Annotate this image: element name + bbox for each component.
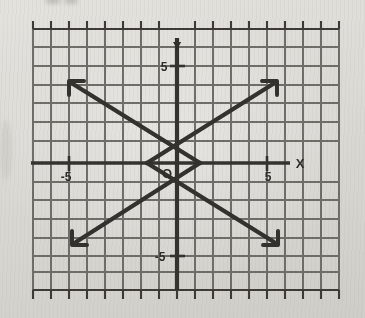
ray-upper-left (73, 84, 200, 163)
x-tick-label-positive: 5 (265, 170, 272, 184)
x-axis-label: X (296, 156, 305, 171)
grid-lines (33, 29, 339, 290)
origin-label: O (162, 166, 172, 181)
grid-frame (33, 29, 339, 290)
y-tick-label-negative: -5 (155, 250, 166, 264)
frame-ticks-top (33, 21, 339, 29)
scanned-page: Y X O 5 -5 -5 5 (0, 0, 365, 318)
y-tick-label-positive: 5 (161, 60, 168, 74)
x-tick-label-negative: -5 (61, 170, 72, 184)
ray-upper-right (147, 84, 273, 163)
frame-ticks-bottom (33, 290, 339, 299)
y-axis-label: Y (173, 39, 182, 54)
ray-lower-left (76, 163, 200, 242)
coordinate-plane: Y X O 5 -5 -5 5 (0, 0, 365, 318)
